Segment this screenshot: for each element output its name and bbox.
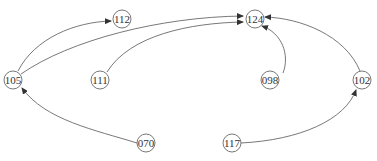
- node-label: 124: [247, 13, 264, 25]
- edge-117-102: [241, 90, 356, 143]
- node-102[interactable]: 102: [353, 71, 371, 89]
- node-111[interactable]: 111: [91, 71, 109, 89]
- node-117[interactable]: 117: [223, 134, 241, 152]
- node-label: 098: [262, 74, 279, 86]
- nodes: 112 124 105 111 098 102 070 117: [4, 10, 371, 152]
- node-label: 117: [224, 137, 241, 149]
- node-label: 070: [138, 137, 155, 149]
- edges: [18, 16, 360, 143]
- edge-105-112: [18, 21, 111, 71]
- node-112[interactable]: 112: [113, 10, 131, 28]
- node-label: 102: [354, 74, 371, 86]
- node-label: 112: [114, 13, 130, 25]
- node-105[interactable]: 105: [4, 71, 22, 89]
- node-label: 111: [92, 74, 108, 86]
- node-label: 105: [5, 74, 22, 86]
- edge-098-124: [262, 26, 285, 73]
- edge-105-124: [21, 16, 243, 74]
- edge-111-124: [107, 22, 243, 72]
- node-098[interactable]: 098: [261, 71, 279, 89]
- node-070[interactable]: 070: [137, 134, 155, 152]
- edge-070-105: [22, 88, 137, 143]
- node-124[interactable]: 124: [246, 10, 264, 28]
- graph-canvas: 112 124 105 111 098 102 070 117: [0, 0, 377, 161]
- edge-102-124: [265, 17, 360, 71]
